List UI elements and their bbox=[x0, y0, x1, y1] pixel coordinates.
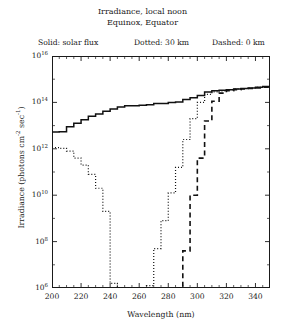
y-tick-label: 1016 bbox=[32, 51, 48, 60]
y-axis-title-close: ) bbox=[17, 106, 26, 109]
y-tick-label: 1012 bbox=[32, 144, 48, 153]
y-tick-label: 1014 bbox=[32, 97, 48, 106]
y-axis-title-text: Irradiance (photons cm bbox=[17, 136, 26, 229]
legend: Solid: solar flux Dotted: 30 km Dashed: … bbox=[0, 38, 285, 50]
plot-area bbox=[52, 56, 270, 288]
y-tick-label: 1010 bbox=[32, 190, 48, 199]
legend-item-dotted: Dotted: 30 km bbox=[134, 38, 189, 47]
series-line-dotted bbox=[52, 86, 270, 288]
x-tick-label: 320 bbox=[211, 292, 241, 301]
series-line-dashed bbox=[176, 86, 270, 288]
x-tick-label: 240 bbox=[95, 292, 125, 301]
x-tick-label: 280 bbox=[153, 292, 183, 301]
irradiance-figure: Irradiance, local noon Equinox, Equator … bbox=[0, 0, 285, 330]
x-tick-label: 200 bbox=[37, 292, 67, 301]
legend-item-dashed: Dashed: 0 km bbox=[212, 38, 265, 47]
axis-ticks bbox=[52, 56, 270, 288]
x-axis-title: Wavelength (nm) bbox=[52, 310, 270, 319]
plot-frame bbox=[53, 57, 270, 288]
y-tick-label: 106 bbox=[35, 283, 48, 292]
chart-title: Irradiance, local noon Equinox, Equator bbox=[0, 6, 285, 28]
chart-title-line-2: Equinox, Equator bbox=[0, 17, 285, 28]
y-axis-exp-2: -1 bbox=[15, 110, 21, 115]
chart-title-line-1: Irradiance, local noon bbox=[0, 6, 285, 17]
x-tick-label: 260 bbox=[124, 292, 154, 301]
y-axis-title-mid: sec bbox=[17, 115, 26, 130]
x-tick-label: 300 bbox=[182, 292, 212, 301]
y-axis-exp-1: -2 bbox=[15, 130, 21, 135]
data-series bbox=[52, 86, 270, 288]
legend-item-solid: Solid: solar flux bbox=[38, 38, 98, 47]
x-tick-label: 220 bbox=[66, 292, 96, 301]
y-tick-label: 108 bbox=[35, 237, 48, 246]
y-axis-title: Irradiance (photons cm-2 sec-1) bbox=[17, 78, 26, 258]
x-tick-label: 340 bbox=[240, 292, 270, 301]
series-line-solid bbox=[52, 86, 270, 132]
plot-canvas bbox=[52, 56, 270, 288]
